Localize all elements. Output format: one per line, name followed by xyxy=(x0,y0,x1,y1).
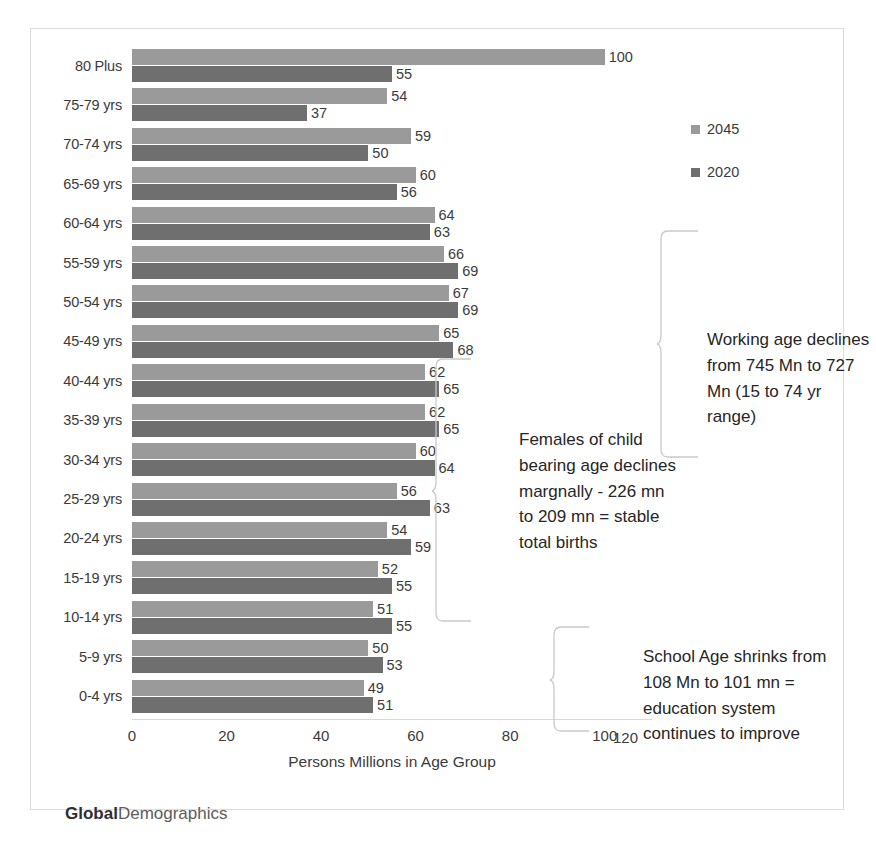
bar-2020: 56 xyxy=(132,184,397,200)
category-label: 10-14 yrs xyxy=(63,609,122,625)
bar-value-label: 51 xyxy=(377,696,393,712)
bar-value-label: 69 xyxy=(462,263,478,279)
legend-item: 2020 xyxy=(691,164,739,180)
bar-value-label: 37 xyxy=(311,105,327,121)
brand-logo-bold: Global xyxy=(65,804,118,823)
annotation-females-child-bearing-age: Females of child bearing age declines ma… xyxy=(519,427,679,556)
category-label: 65-69 yrs xyxy=(63,176,122,192)
bar-value-label: 64 xyxy=(439,206,455,222)
bar-value-label: 56 xyxy=(401,482,417,498)
chart-row: 40-44 yrs6265 xyxy=(132,364,652,397)
bar-2020: 69 xyxy=(132,302,458,318)
bar-2045: 54 xyxy=(132,88,387,104)
bracket-school-age xyxy=(549,625,593,735)
category-label: 5-9 yrs xyxy=(79,649,122,665)
bar-2020: 55 xyxy=(132,66,392,82)
category-label: 45-49 yrs xyxy=(63,333,122,349)
annotation-school-age: School Age shrinks from 108 Mn to 101 mn… xyxy=(643,644,828,747)
bar-2045: 54 xyxy=(132,522,387,538)
bar-2020: 50 xyxy=(132,145,368,161)
bracket-working-age xyxy=(656,229,702,459)
bar-2045: 49 xyxy=(132,680,364,696)
plot-area: 80 Plus1005575-79 yrs543770-74 yrs595065… xyxy=(132,45,652,715)
chart-row: 50-54 yrs6769 xyxy=(132,285,652,318)
legend-swatch-icon xyxy=(691,168,700,177)
bar-2045: 59 xyxy=(132,128,411,144)
bar-value-label: 63 xyxy=(434,223,450,239)
chart-legend: 20452020 xyxy=(691,121,739,207)
bar-value-label: 49 xyxy=(368,679,384,695)
bar-2045: 50 xyxy=(132,640,368,656)
x-axis-stray-tick: 120 xyxy=(613,729,638,746)
category-label: 50-54 yrs xyxy=(63,294,122,310)
bar-value-label: 56 xyxy=(401,184,417,200)
category-label: 15-19 yrs xyxy=(63,570,122,586)
category-label: 25-29 yrs xyxy=(63,491,122,507)
bar-value-label: 60 xyxy=(420,167,436,183)
category-label: 75-79 yrs xyxy=(63,97,122,113)
bar-value-label: 51 xyxy=(377,600,393,616)
bar-2045: 62 xyxy=(132,404,425,420)
bar-value-label: 54 xyxy=(391,88,407,104)
x-axis-tick-label: 40 xyxy=(313,727,330,744)
bar-value-label: 69 xyxy=(462,302,478,318)
x-axis-tick-label: 0 xyxy=(128,727,136,744)
bar-value-label: 67 xyxy=(453,285,469,301)
brand-logo-light: Demographics xyxy=(118,804,228,823)
category-label: 70-74 yrs xyxy=(63,136,122,152)
bar-2020: 53 xyxy=(132,657,383,673)
category-label: 80 Plus xyxy=(75,58,122,74)
bar-2020: 64 xyxy=(132,460,435,476)
bar-2045: 56 xyxy=(132,483,397,499)
bar-2045: 67 xyxy=(132,285,449,301)
chart-row: 45-49 yrs6568 xyxy=(132,325,652,358)
bar-2045: 100 xyxy=(132,49,605,65)
legend-label: 2045 xyxy=(707,121,739,137)
bar-value-label: 100 xyxy=(609,49,633,65)
chart-row: 70-74 yrs5950 xyxy=(132,128,652,161)
bar-2045: 51 xyxy=(132,601,373,617)
x-axis-title: Persons Millions in Age Group xyxy=(132,753,652,771)
chart-row: 75-79 yrs5437 xyxy=(132,88,652,121)
bar-2020: 68 xyxy=(132,342,453,358)
x-axis-tick-label: 80 xyxy=(502,727,519,744)
category-label: 60-64 yrs xyxy=(63,215,122,231)
bar-value-label: 55 xyxy=(396,578,412,594)
bracket-females-child-bearing xyxy=(431,357,475,625)
bar-2020: 65 xyxy=(132,421,439,437)
bar-2020: 63 xyxy=(132,224,430,240)
legend-item: 2045 xyxy=(691,121,739,137)
bar-value-label: 54 xyxy=(391,522,407,538)
brand-logo: GlobalDemographics xyxy=(65,804,228,824)
bar-value-label: 66 xyxy=(448,246,464,262)
category-label: 20-24 yrs xyxy=(63,530,122,546)
bar-2045: 60 xyxy=(132,443,416,459)
bar-value-label: 55 xyxy=(396,617,412,633)
bar-2020: 51 xyxy=(132,697,373,713)
bar-value-label: 59 xyxy=(415,127,431,143)
bar-2020: 55 xyxy=(132,578,392,594)
chart-row: 60-64 yrs6463 xyxy=(132,207,652,240)
chart-row: 55-59 yrs6669 xyxy=(132,246,652,279)
bar-2020: 55 xyxy=(132,618,392,634)
x-axis-tick-label: 60 xyxy=(407,727,424,744)
bar-value-label: 55 xyxy=(396,66,412,82)
chart-row: 15-19 yrs5255 xyxy=(132,561,652,594)
category-label: 30-34 yrs xyxy=(63,452,122,468)
bar-2045: 60 xyxy=(132,167,416,183)
chart-row: 80 Plus10055 xyxy=(132,49,652,82)
category-label: 55-59 yrs xyxy=(63,255,122,271)
bar-2045: 52 xyxy=(132,561,378,577)
bar-value-label: 50 xyxy=(372,640,388,656)
bar-2045: 66 xyxy=(132,246,444,262)
bar-2045: 64 xyxy=(132,207,435,223)
bar-2020: 63 xyxy=(132,500,430,516)
x-axis-tick-label: 20 xyxy=(218,727,235,744)
bar-2045: 62 xyxy=(132,364,425,380)
category-label: 0-4 yrs xyxy=(79,688,122,704)
legend-label: 2020 xyxy=(707,164,739,180)
bar-2020: 65 xyxy=(132,381,439,397)
bar-2020: 69 xyxy=(132,263,458,279)
legend-swatch-icon xyxy=(691,125,700,134)
chart-frame: 80 Plus1005575-79 yrs543770-74 yrs595065… xyxy=(30,28,844,810)
